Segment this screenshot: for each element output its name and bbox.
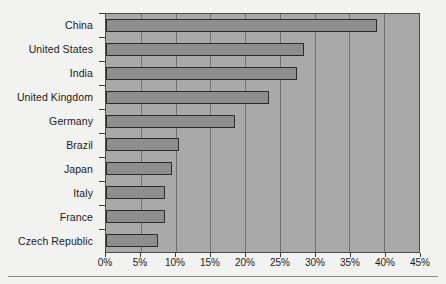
category-label-row: Germany	[0, 109, 99, 133]
value-tick-label: 35%	[340, 257, 360, 268]
value-tick-label: 45%	[410, 257, 430, 268]
category-label-row: United Kingdom	[0, 85, 99, 109]
bar-row	[106, 62, 419, 86]
category-label-row: India	[0, 61, 99, 85]
category-label-row: Czech Republic	[0, 229, 99, 253]
bar	[106, 19, 377, 32]
value-tick-label: 40%	[375, 257, 395, 268]
category-label: Japan	[64, 163, 93, 175]
bar-chart-figure: ChinaUnited StatesIndiaUnited KingdomGer…	[0, 0, 446, 284]
category-label: United Kingdom	[17, 91, 93, 103]
bar-row	[106, 204, 419, 228]
category-label: Brazil	[66, 139, 93, 151]
bar	[106, 43, 304, 56]
category-label-row: Italy	[0, 181, 99, 205]
bar-row	[106, 133, 419, 157]
category-label: China	[65, 19, 93, 31]
bar	[106, 162, 172, 175]
bar-row	[106, 181, 419, 205]
category-label-row: United States	[0, 37, 99, 61]
category-label: Czech Republic	[18, 235, 93, 247]
bar-series	[106, 14, 419, 252]
category-label-row: Japan	[0, 157, 99, 181]
bottom-divider	[8, 276, 438, 277]
value-tick-label: 5%	[133, 257, 147, 268]
bar-row	[106, 157, 419, 181]
plot-area	[105, 13, 420, 253]
gridline	[419, 14, 420, 252]
category-label: Germany	[49, 115, 93, 127]
bar-row	[106, 85, 419, 109]
value-tick-label: 10%	[165, 257, 185, 268]
bar-row	[106, 109, 419, 133]
category-axis-labels: ChinaUnited StatesIndiaUnited KingdomGer…	[0, 13, 99, 253]
bar-row	[106, 38, 419, 62]
bar	[106, 67, 297, 80]
bar	[106, 234, 158, 247]
bar	[106, 186, 165, 199]
value-tick-label: 0%	[98, 257, 112, 268]
category-label-row: France	[0, 205, 99, 229]
value-tick-label: 20%	[235, 257, 255, 268]
bar	[106, 138, 179, 151]
value-tick-label: 25%	[270, 257, 290, 268]
category-label-row: Brazil	[0, 133, 99, 157]
value-tick-label: 30%	[305, 257, 325, 268]
value-tick-label: 15%	[200, 257, 220, 268]
category-label: India	[70, 67, 93, 79]
value-axis-labels: 0%5%10%15%20%25%30%35%40%45%	[105, 257, 420, 271]
category-label-row: China	[0, 13, 99, 37]
bar-row	[106, 228, 419, 252]
category-label: France	[60, 211, 93, 223]
bar	[106, 91, 269, 104]
category-label: United States	[29, 43, 93, 55]
bar-row	[106, 14, 419, 38]
bar	[106, 210, 165, 223]
category-label: Italy	[73, 187, 93, 199]
bar	[106, 115, 235, 128]
